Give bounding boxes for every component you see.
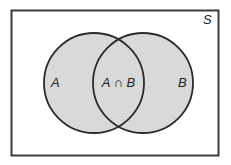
intersection-label: A ∩ B [101,75,136,90]
set-a-label: A [50,75,60,90]
venn-diagram: S A A ∩ B B [0,0,231,165]
set-b-label: B [178,75,187,90]
universe-label: S [203,12,212,27]
